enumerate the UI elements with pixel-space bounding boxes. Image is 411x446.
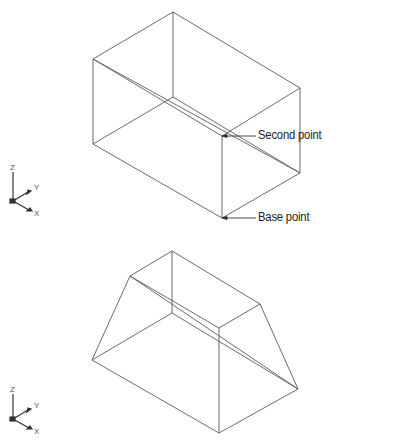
axis-z-label-bottom: Z bbox=[10, 385, 15, 394]
axis-z-label-top: Z bbox=[10, 163, 15, 172]
base-point-label: Base point bbox=[258, 210, 309, 224]
callout-leaders bbox=[222, 135, 256, 220]
second-point-label: Second point bbox=[258, 128, 322, 142]
box-wireframe bbox=[93, 12, 300, 218]
axis-y-label-top: Y bbox=[34, 183, 39, 192]
drawing-canvas bbox=[0, 0, 411, 446]
axis-y-label-bottom: Y bbox=[34, 401, 39, 410]
ucs-icon-bottom bbox=[10, 394, 32, 429]
ucs-icon-top bbox=[10, 172, 32, 211]
axis-x-label-top: X bbox=[34, 209, 39, 218]
axis-x-label-bottom: X bbox=[34, 427, 39, 436]
frustum-wireframe bbox=[92, 251, 298, 433]
